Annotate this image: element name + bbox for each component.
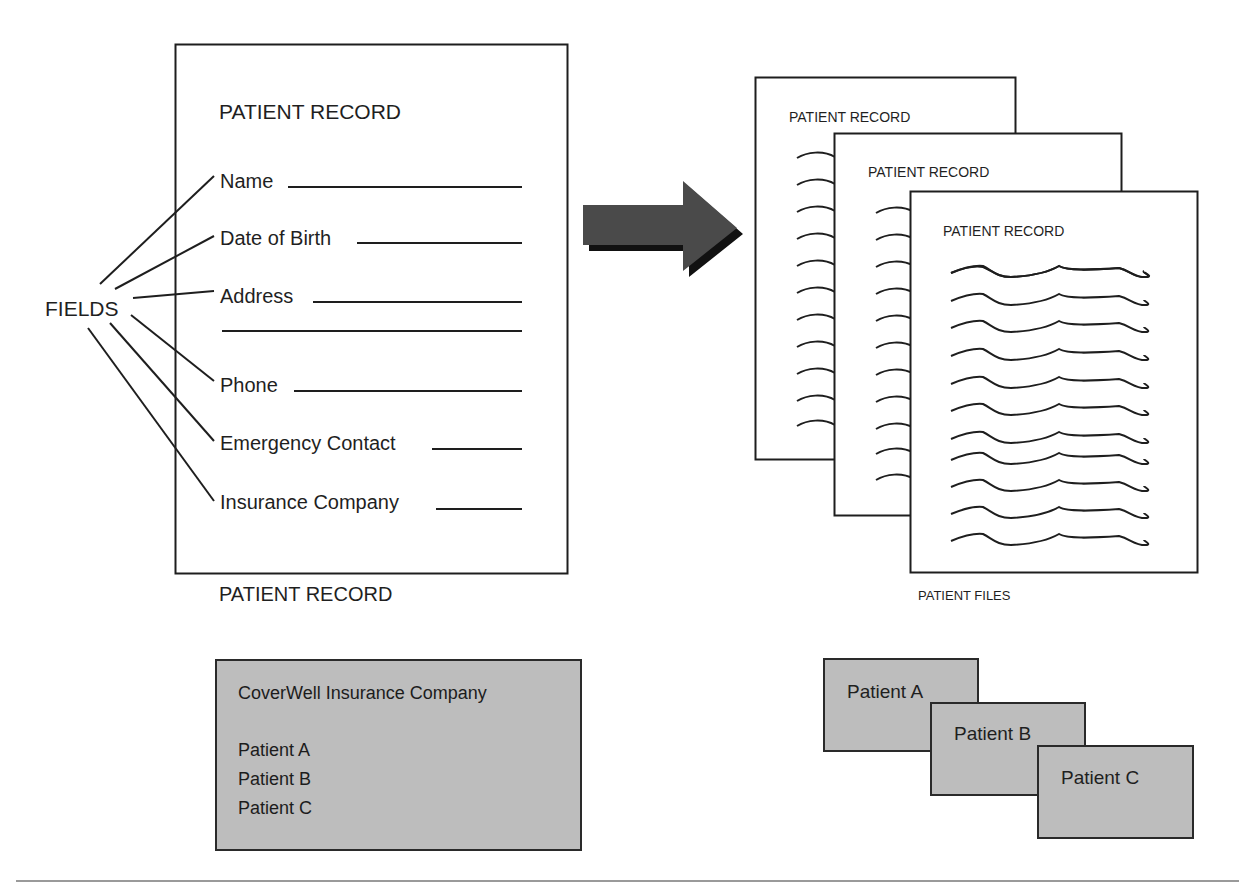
sheet-1-title: PATIENT RECORD	[789, 110, 910, 124]
patient-card-a-label: Patient A	[847, 682, 923, 701]
form-caption: PATIENT RECORD	[219, 584, 392, 604]
fields-label: FIELDS	[45, 298, 119, 319]
sheet-3-title: PATIENT RECORD	[943, 224, 1064, 238]
arrow-body	[583, 181, 737, 271]
insurance-patient-c: Patient C	[238, 799, 312, 817]
patient-files-stack	[756, 78, 1198, 573]
insurance-patient-a: Patient A	[238, 741, 310, 759]
field-label-phone: Phone	[220, 375, 278, 395]
files-caption: PATIENT FILES	[918, 589, 1010, 602]
insurance-company-box: CoverWell Insurance Company Patient A Pa…	[215, 659, 582, 851]
form-title: PATIENT RECORD	[219, 101, 401, 122]
patient-card-c: Patient C	[1037, 745, 1194, 839]
patient-card-b-label: Patient B	[954, 724, 1031, 743]
right-arrow-icon	[583, 181, 743, 277]
field-label-dob: Date of Birth	[220, 228, 331, 248]
insurance-company-name: CoverWell Insurance Company	[238, 684, 487, 702]
patient-card-c-label: Patient C	[1061, 768, 1139, 787]
sheet-2-title: PATIENT RECORD	[868, 165, 989, 179]
field-label-emergency: Emergency Contact	[220, 433, 396, 453]
field-label-name: Name	[220, 171, 273, 191]
insurance-patient-b: Patient B	[238, 770, 311, 788]
field-label-address: Address	[220, 286, 293, 306]
field-label-insurance: Insurance Company	[220, 492, 399, 512]
